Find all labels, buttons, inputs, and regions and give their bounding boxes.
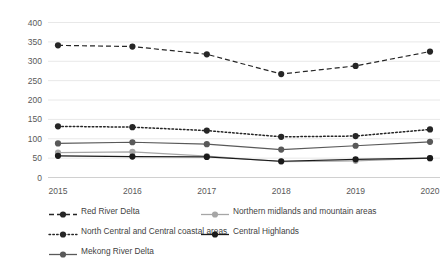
line-chart-svg: 0501001502002503003504002015201620172018… [0,0,446,200]
data-point-marker [129,153,135,159]
y-axis-tick-label: 50 [33,153,43,163]
y-axis-tick-label: 200 [28,95,42,105]
data-point-marker [353,133,359,139]
x-axis-tick-label: 2018 [272,186,291,196]
chart-plot-area: 0501001502002503003504002015201620172018… [0,0,446,200]
series-line [58,126,430,136]
data-point-marker [55,123,61,129]
data-point-marker [353,63,359,69]
legend-symbol-icon [48,226,78,237]
data-point-marker [353,143,359,149]
x-axis-tick-label: 2020 [421,186,440,196]
y-axis-tick-label: 0 [37,173,42,183]
data-point-marker [353,156,359,162]
data-point-marker [204,128,210,134]
y-axis-tick-label: 100 [28,134,42,144]
legend-label: Northern midlands and mountain areas [233,206,376,217]
chart-root: 0501001502002503003504002015201620172018… [0,0,446,266]
data-point-marker [278,71,284,77]
data-point-marker [427,139,433,145]
x-axis-tick-label: 2019 [346,186,365,196]
legend-symbol-icon [48,206,78,217]
legend-symbol-icon [200,206,230,217]
legend-item[interactable]: Central Highlands [200,226,299,237]
legend-symbol-icon [200,226,230,237]
legend-label: Central Highlands [233,226,299,237]
legend-symbol-icon [48,246,78,257]
y-axis-tick-label: 250 [28,76,42,86]
legend-item[interactable]: Mekong River Delta [48,246,154,257]
series-line [58,45,430,74]
legend-label: Mekong River Delta [81,246,154,257]
chart-legend: Red River DeltaNorthern midlands and mou… [0,203,446,266]
y-axis-tick-label: 350 [28,37,42,47]
y-axis-tick-label: 150 [28,114,42,124]
chart-series [55,123,433,140]
data-point-marker [278,134,284,140]
x-axis-tick-label: 2016 [123,186,142,196]
series-line [58,142,430,150]
data-point-marker [55,42,61,48]
data-point-marker [278,147,284,153]
data-point-marker [278,158,284,164]
data-point-marker [55,153,61,159]
data-point-marker [204,51,210,57]
legend-item[interactable]: Northern midlands and mountain areas [200,206,376,217]
data-point-marker [204,154,210,160]
legend-item[interactable]: Red River Delta [48,206,140,217]
x-axis-tick-label: 2017 [197,186,216,196]
y-axis-tick-label: 400 [28,18,42,28]
legend-label: Red River Delta [81,206,140,217]
chart-series [55,139,433,153]
data-point-marker [204,141,210,147]
data-point-marker [427,126,433,132]
data-point-marker [129,124,135,130]
data-point-marker [55,140,61,146]
x-axis-tick-label: 2015 [49,186,68,196]
data-point-marker [427,155,433,161]
data-point-marker [129,43,135,49]
y-axis-tick-label: 300 [28,56,42,66]
data-point-marker [427,48,433,54]
chart-series [55,42,433,77]
data-point-marker [129,139,135,145]
